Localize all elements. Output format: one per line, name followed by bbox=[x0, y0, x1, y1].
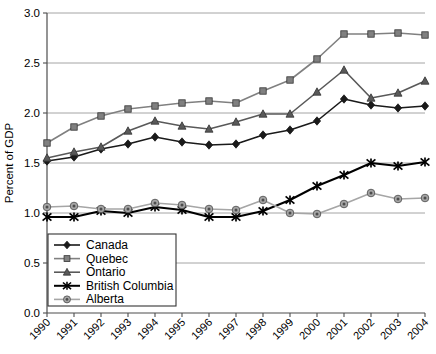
marker-square bbox=[44, 140, 50, 146]
x-tick-label: 1999 bbox=[270, 316, 296, 342]
marker-diamond bbox=[367, 101, 374, 109]
marker-circle-dot bbox=[289, 212, 292, 215]
x-tick-label: 2001 bbox=[324, 316, 350, 342]
marker-diamond bbox=[232, 140, 239, 148]
marker-square bbox=[152, 103, 158, 109]
series-line bbox=[47, 99, 425, 161]
marker-square bbox=[179, 100, 185, 106]
marker-diamond bbox=[205, 141, 212, 149]
chart-container: 0.00.51.01.52.02.53.01990199119921993199… bbox=[0, 0, 436, 354]
marker-square bbox=[260, 88, 266, 94]
x-tick-label: 1998 bbox=[243, 316, 269, 342]
marker-triangle bbox=[421, 77, 429, 84]
marker-triangle bbox=[97, 143, 105, 150]
y-tick-label: 0.5 bbox=[24, 257, 40, 269]
marker-circle-dot bbox=[46, 206, 49, 209]
y-tick-label: 3.0 bbox=[24, 7, 40, 19]
y-tick-label: 2.0 bbox=[24, 107, 40, 119]
marker-circle-dot bbox=[127, 208, 130, 211]
marker-square bbox=[368, 31, 374, 37]
marker-square bbox=[395, 30, 401, 36]
x-tick-label: 1994 bbox=[135, 316, 161, 342]
marker-circle-dot bbox=[370, 192, 373, 195]
legend: CanadaQuebecOntarioBritish ColumbiaAlber… bbox=[48, 234, 176, 306]
x-tick-label: 2000 bbox=[297, 316, 323, 342]
marker-square bbox=[314, 56, 320, 62]
legend-label-british-columbia: British Columbia bbox=[86, 279, 174, 293]
x-tick-label: 1991 bbox=[54, 316, 80, 342]
marker-square bbox=[206, 98, 212, 104]
marker-square bbox=[64, 256, 70, 262]
x-tick-label: 1995 bbox=[162, 316, 188, 342]
marker-circle-dot bbox=[343, 203, 346, 206]
marker-triangle bbox=[340, 66, 348, 73]
legend-label-canada: Canada bbox=[86, 238, 128, 252]
y-axis-title: Percent of GDP bbox=[3, 122, 15, 203]
series-quebec bbox=[44, 30, 428, 146]
x-tick-label: 1996 bbox=[189, 316, 215, 342]
marker-diamond bbox=[421, 102, 428, 110]
marker-square bbox=[125, 106, 131, 112]
marker-diamond bbox=[124, 140, 131, 148]
marker-circle-dot bbox=[397, 198, 400, 201]
x-tick-label: 2004 bbox=[405, 316, 431, 342]
marker-circle-dot bbox=[424, 197, 427, 200]
legend-label-quebec: Quebec bbox=[86, 252, 128, 266]
y-tick-label: 2.5 bbox=[24, 57, 40, 69]
line-chart: 0.00.51.01.52.02.53.01990199119921993199… bbox=[0, 0, 436, 354]
marker-circle-dot bbox=[100, 208, 103, 211]
y-tick-label: 1.5 bbox=[24, 157, 40, 169]
marker-circle-dot bbox=[73, 205, 76, 208]
marker-diamond bbox=[178, 138, 185, 146]
x-tick-label: 1993 bbox=[108, 316, 134, 342]
marker-circle-dot bbox=[208, 208, 211, 211]
x-tick-label: 1990 bbox=[27, 316, 53, 342]
marker-circle-dot bbox=[154, 202, 157, 205]
series-line bbox=[47, 33, 425, 143]
legend-label-alberta: Alberta bbox=[86, 292, 124, 306]
x-tick-label: 1992 bbox=[81, 316, 107, 342]
marker-diamond bbox=[286, 126, 293, 134]
marker-diamond bbox=[394, 104, 401, 112]
x-tick-label: 2003 bbox=[378, 316, 404, 342]
marker-square bbox=[233, 100, 239, 106]
marker-circle-dot bbox=[181, 204, 184, 207]
marker-circle-dot bbox=[66, 298, 69, 301]
marker-circle-dot bbox=[262, 199, 265, 202]
y-tick-label: 0.0 bbox=[24, 307, 40, 319]
marker-triangle bbox=[151, 117, 159, 124]
marker-circle-dot bbox=[235, 209, 238, 212]
marker-square bbox=[287, 77, 293, 83]
marker-diamond bbox=[259, 131, 266, 139]
y-tick-label: 1.0 bbox=[24, 207, 40, 219]
marker-diamond bbox=[151, 133, 158, 141]
x-tick-label: 2002 bbox=[351, 316, 377, 342]
marker-square bbox=[98, 113, 104, 119]
x-tick-label: 1997 bbox=[216, 316, 242, 342]
marker-circle-dot bbox=[316, 213, 319, 216]
marker-square bbox=[71, 124, 77, 130]
marker-square bbox=[341, 31, 347, 37]
marker-square bbox=[422, 32, 428, 38]
legend-label-ontario: Ontario bbox=[86, 265, 126, 279]
